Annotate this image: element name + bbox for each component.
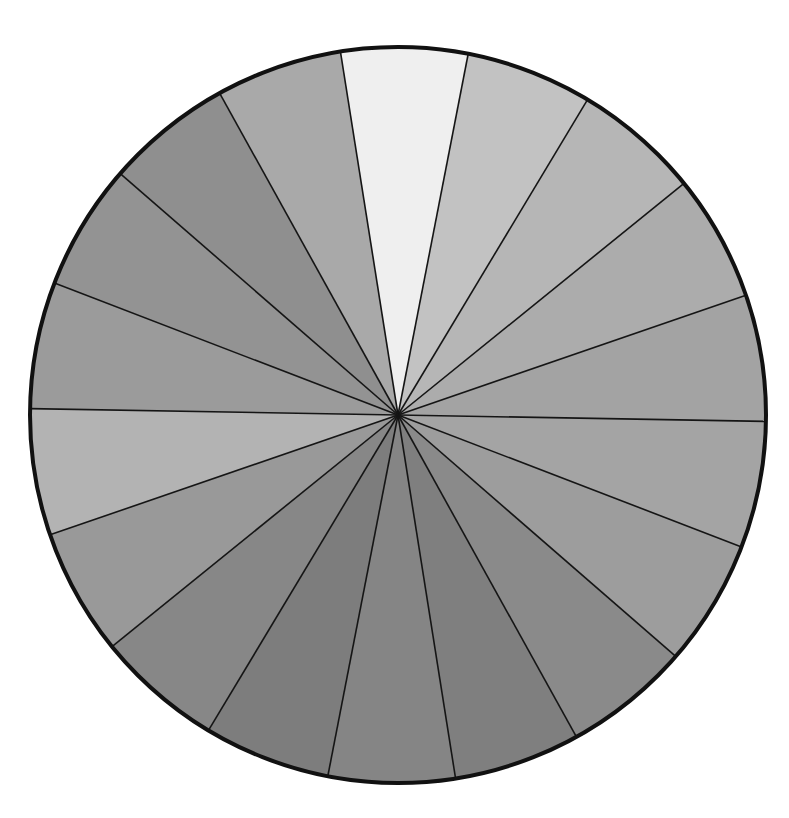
divided-circle-figure [0, 0, 789, 818]
pie-wheel [0, 0, 789, 818]
